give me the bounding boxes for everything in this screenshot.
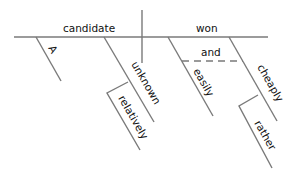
cheaply-word: cheaply	[255, 62, 286, 104]
sentence-diagram: candidate won A unknown relatively easil…	[0, 0, 292, 171]
rather-word: rather	[252, 118, 279, 153]
subject-word: candidate	[63, 22, 115, 34]
easily-word: easily	[191, 66, 217, 98]
conjunction-word: and	[201, 46, 221, 58]
diagram-lines: candidate won A unknown relatively easil…	[0, 0, 292, 171]
article-word: A	[46, 43, 60, 56]
adjective-word: unknown	[129, 59, 163, 106]
verb-word: won	[196, 22, 218, 34]
